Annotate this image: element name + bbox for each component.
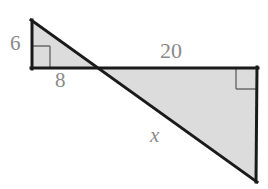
side-label-20: 20 <box>160 40 182 62</box>
geometry-diagram <box>0 0 268 189</box>
geometry-figure: 6 8 20 x <box>0 0 268 189</box>
side-label-6: 6 <box>10 33 21 54</box>
side-label-x: x <box>150 125 159 146</box>
large-triangle-vertical-leg <box>256 67 257 182</box>
side-label-8: 8 <box>55 70 66 91</box>
